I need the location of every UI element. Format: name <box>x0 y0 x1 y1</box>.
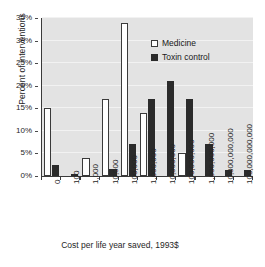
y-axis-tick-mark <box>35 41 38 42</box>
x-axis-tick-label: 100,000,000,000 <box>246 124 254 184</box>
bar-group <box>42 18 61 176</box>
x-axis-tick-mark <box>41 176 42 180</box>
bar-medicine <box>140 113 147 176</box>
legend-swatch-filled-square-icon <box>151 54 158 61</box>
legend-label-medicine: Medicine <box>162 39 196 48</box>
bar-toxin-control <box>52 165 59 176</box>
y-axis-tick-label: 20% <box>16 82 32 90</box>
x-axis-tick-label: 10,000 <box>112 160 120 184</box>
chart-figure: Percent of interventions 0%5%10%15%20%25… <box>0 0 265 267</box>
x-axis-tick-label: 0 <box>54 180 62 184</box>
y-axis-tick-label: 0% <box>20 172 32 180</box>
y-axis-tick-labels: 0%5%10%15%20%25%30%35% <box>14 14 38 176</box>
y-axis-tick-mark <box>35 18 38 19</box>
y-axis-tick-label: 25% <box>16 59 32 67</box>
bar-medicine <box>82 158 89 176</box>
chart-legend: Medicine Toxin control <box>151 38 231 66</box>
legend-item-toxin-control: Toxin control <box>151 52 231 62</box>
y-axis-tick-label: 35% <box>16 14 32 22</box>
bar-group <box>100 18 119 176</box>
y-axis-tick-mark <box>35 63 38 64</box>
bar-group <box>61 18 80 176</box>
y-axis-tick-mark <box>35 108 38 109</box>
x-axis-tick-label: 1,000,000,000 <box>208 133 216 184</box>
y-axis-tick-label: 5% <box>20 149 32 157</box>
y-axis-tick-mark <box>35 86 38 87</box>
bar-medicine <box>102 99 109 176</box>
bar-medicine <box>44 108 51 176</box>
x-axis-tick-label: 1,000 <box>92 164 100 184</box>
y-axis-tick-label: 15% <box>16 104 32 112</box>
bar-medicine <box>121 23 128 176</box>
y-axis-tick-mark <box>35 131 38 132</box>
x-axis-tick-label: 100 <box>73 171 81 184</box>
legend-swatch-open-square-icon <box>151 40 158 47</box>
bar-group <box>119 18 138 176</box>
y-axis-tick-mark <box>35 153 38 154</box>
legend-label-toxin-control: Toxin control <box>162 53 210 62</box>
y-axis-tick-label: 10% <box>16 127 32 135</box>
x-axis-tick-label: 10,000,000 <box>169 144 177 184</box>
y-axis-tick-label: 30% <box>16 37 32 45</box>
bar-group <box>80 18 99 176</box>
legend-item-medicine: Medicine <box>151 38 231 48</box>
x-axis-tick-label: 100,000,000 <box>188 140 196 185</box>
x-axis-tick-label: 1,000,000 <box>150 148 158 184</box>
y-axis-tick-mark <box>35 176 38 177</box>
x-axis-tick-label: 10,000,000,000 <box>227 128 235 184</box>
x-axis-title: Cost per life year saved, 1993$ <box>30 240 210 250</box>
bar-medicine <box>178 153 185 176</box>
x-axis-tick-label: 100,000 <box>131 155 139 184</box>
